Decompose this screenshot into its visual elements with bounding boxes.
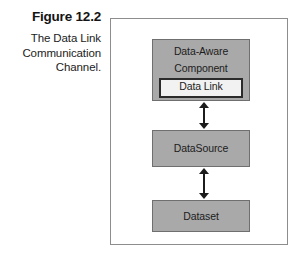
node-datasource: DataSource — [152, 130, 250, 167]
connector-component-datasource — [199, 102, 210, 129]
node-datasource-label: DataSource — [174, 142, 228, 155]
node-data-link-label: Data Link — [179, 80, 222, 92]
node-data-link: Data Link — [159, 78, 243, 98]
arrow-shaft — [203, 107, 205, 124]
diagram-frame: Data-Aware Component Data Link DataSourc… — [110, 18, 288, 245]
arrow-head-down-icon — [199, 193, 209, 199]
node-dataset: Dataset — [152, 200, 250, 232]
figure-number: Figure 12.2 — [0, 8, 101, 25]
figure-caption-block: Figure 12.2 The Data Link Communication … — [0, 8, 101, 75]
arrow-head-down-icon — [199, 123, 209, 129]
figure-page: Figure 12.2 The Data Link Communication … — [0, 0, 297, 256]
node-data-aware-component-label-line1: Data-Aware — [174, 45, 228, 58]
node-data-aware-component: Data-Aware Component Data Link — [152, 39, 250, 101]
node-data-aware-component-label-line2: Component — [174, 62, 227, 75]
node-dataset-label: Dataset — [183, 210, 219, 223]
figure-caption-text: The Data Link Communication Channel. — [0, 31, 101, 75]
arrow-shaft — [203, 173, 205, 194]
connector-datasource-dataset — [199, 168, 210, 199]
